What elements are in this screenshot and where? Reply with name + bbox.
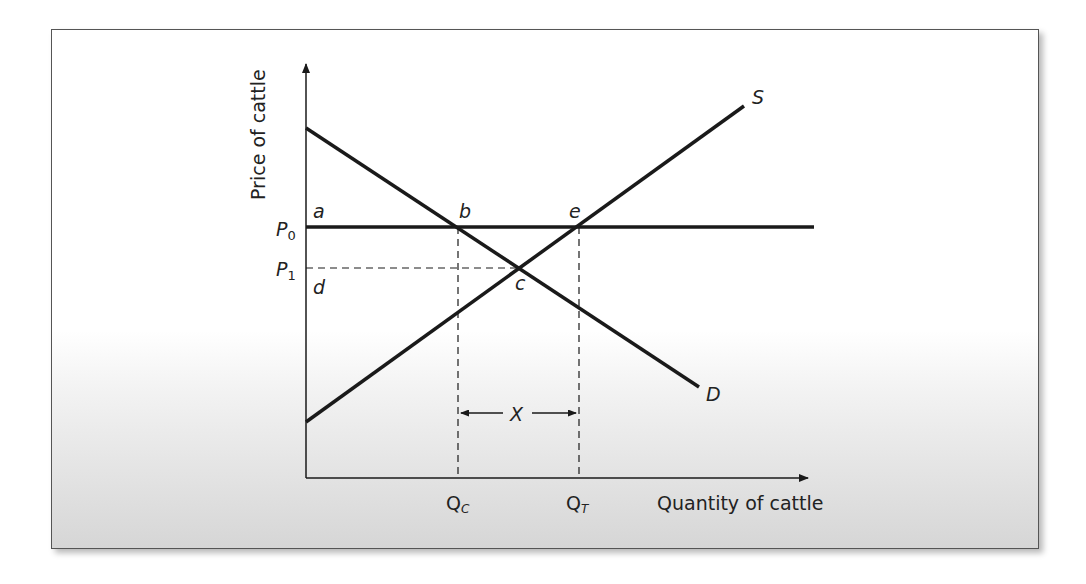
point-c-label: c xyxy=(515,272,526,294)
gap-label: X xyxy=(509,403,524,425)
x-axis-title: Quantity of cattle xyxy=(657,492,823,514)
qc-label: QC xyxy=(446,492,470,516)
qt-label: QT xyxy=(566,492,590,516)
point-d-label: d xyxy=(313,276,326,298)
demand-curve xyxy=(306,128,699,387)
point-b-label: b xyxy=(459,200,471,222)
supply-demand-diagram: X Price of cattle Quantity of cattle P0 … xyxy=(0,0,1086,584)
p0-label: P0 xyxy=(276,218,296,243)
p1-label: P1 xyxy=(276,258,296,283)
demand-label: D xyxy=(706,383,721,405)
y-axis-title: Price of cattle xyxy=(247,69,269,200)
point-e-label: e xyxy=(569,200,581,222)
point-a-label: a xyxy=(313,200,325,222)
supply-label: S xyxy=(752,86,764,108)
